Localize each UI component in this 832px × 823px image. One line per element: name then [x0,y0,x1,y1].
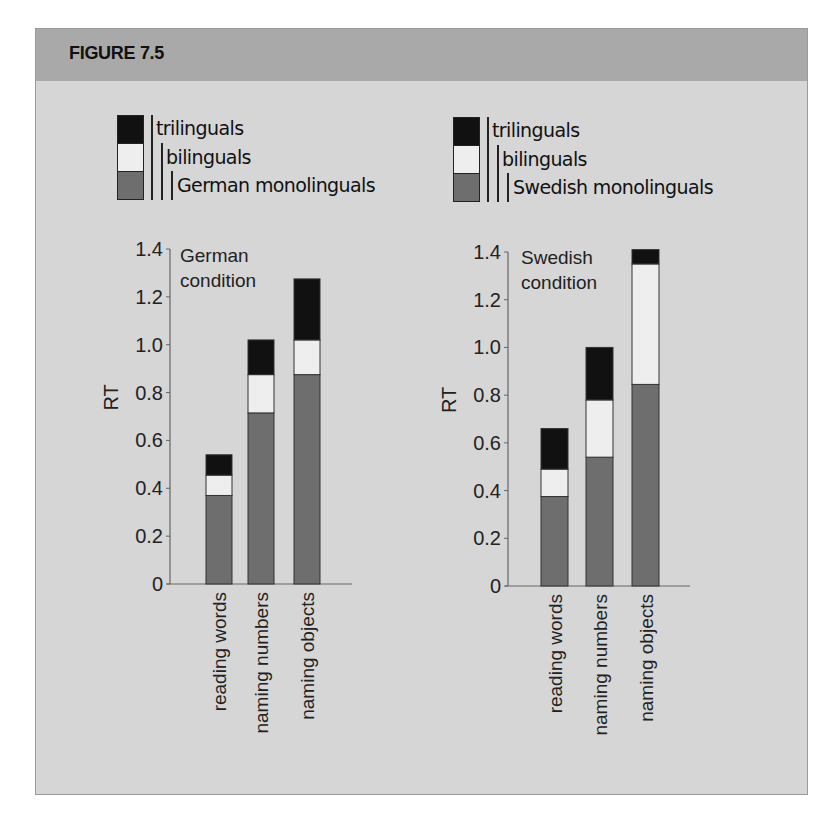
y-tick-label: 0.2 [473,527,501,549]
charts-canvas: 00.20.40.60.81.01.21.4RTGermanconditionr… [0,0,832,823]
y-tick-label: 0.8 [473,384,501,406]
y-axis-label: RT [100,384,122,410]
bar-monolinguals-segment [248,413,274,584]
bar-monolinguals-segment [206,495,232,584]
bar-trilinguals-segment [541,429,568,470]
chart-swedish-condition: 00.20.40.60.81.01.21.4RTSwedishcondition… [438,241,690,736]
y-tick-label: 0 [152,573,163,595]
bar-monolinguals-segment [632,384,659,586]
bar-bilinguals-segment [586,400,613,457]
y-axis-label: RT [438,387,460,413]
y-tick-label: 1.0 [473,336,501,358]
bar-monolinguals-segment [586,457,613,586]
y-tick-label: 1.2 [473,289,501,311]
chart-german-condition: 00.20.40.60.81.01.21.4RTGermanconditionr… [100,238,352,734]
x-category-label: naming objects [297,592,318,720]
y-tick-label: 0.6 [473,432,501,454]
bar-trilinguals-segment [632,250,659,264]
y-tick-label: 1.4 [135,238,163,260]
chart-title-line-2: condition [521,272,597,293]
x-category-label: naming numbers [251,592,272,734]
y-tick-label: 0.6 [135,429,163,451]
y-tick-label: 1.0 [135,334,163,356]
bar-bilinguals-segment [248,375,274,413]
y-tick-label: 0.4 [473,480,501,502]
bar-trilinguals-segment [586,347,613,399]
x-category-label: naming objects [636,594,657,722]
bar-bilinguals-segment [541,469,568,496]
bar-trilinguals-segment [294,279,320,340]
x-category-label: reading words [545,594,566,713]
y-tick-label: 0.8 [135,382,163,404]
chart-title-line-2: condition [180,270,256,291]
chart-title-line-1: Swedish [521,247,593,268]
y-tick-label: 0.2 [135,525,163,547]
bar-bilinguals-segment [294,340,320,375]
y-tick-label: 1.2 [135,286,163,308]
bar-trilinguals-segment [248,340,274,375]
bar-bilinguals-segment [206,475,232,495]
bar-bilinguals-segment [632,264,659,384]
y-tick-label: 0 [490,575,501,597]
y-tick-label: 0.4 [135,477,163,499]
chart-title-line-1: German [180,245,249,266]
bar-trilinguals-segment [206,455,232,475]
x-category-label: naming numbers [590,594,611,736]
x-category-label: reading words [209,592,230,711]
bar-monolinguals-segment [294,375,320,584]
y-tick-label: 1.4 [473,241,501,263]
bar-monolinguals-segment [541,497,568,586]
